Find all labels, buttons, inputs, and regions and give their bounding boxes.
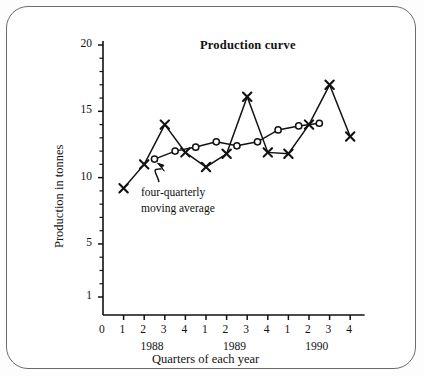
data-point-x-marker bbox=[222, 150, 230, 158]
x-axis-year-label: 1990 bbox=[305, 340, 328, 352]
y-tick-label: 15 bbox=[70, 103, 92, 115]
annotation-line-1: four-quarterly bbox=[141, 186, 205, 198]
y-tick-label: 1 bbox=[70, 289, 92, 301]
data-point-x-marker bbox=[346, 132, 354, 140]
x-tick-label: 3 bbox=[326, 323, 332, 335]
data-point-circle-marker bbox=[234, 143, 240, 149]
y-axis-title: Production in tonnes bbox=[52, 145, 67, 248]
x-tick-label: 0 bbox=[99, 323, 105, 335]
data-point-circle-marker bbox=[275, 127, 281, 133]
data-point-circle-marker bbox=[151, 156, 157, 162]
x-tick-label: 1 bbox=[120, 323, 126, 335]
data-point-circle-marker bbox=[213, 139, 219, 145]
x-tick-label: 2 bbox=[305, 323, 311, 335]
x-axis-year-label: 1988 bbox=[141, 340, 164, 352]
data-point-x-marker bbox=[140, 160, 148, 168]
x-tick-label: 1 bbox=[284, 323, 290, 335]
data-point-x-marker bbox=[161, 120, 169, 128]
data-point-x-marker bbox=[243, 93, 251, 101]
annotation-arrowhead bbox=[157, 163, 164, 171]
data-point-circle-marker bbox=[172, 148, 178, 154]
x-tick-label: 2 bbox=[223, 323, 229, 335]
data-point-x-marker bbox=[202, 163, 210, 171]
data-point-x-marker bbox=[325, 81, 333, 89]
data-point-circle-marker bbox=[296, 123, 302, 129]
x-tick-label: 4 bbox=[181, 323, 187, 335]
series-production bbox=[119, 81, 354, 193]
y-tick-label: 5 bbox=[70, 236, 92, 248]
data-point-x-marker bbox=[119, 184, 127, 192]
x-axis-year-label: 1989 bbox=[223, 340, 246, 352]
annotation-line-2: moving average bbox=[141, 202, 215, 214]
y-tick-label: 20 bbox=[70, 37, 92, 49]
axes-group bbox=[103, 41, 365, 315]
x-tick-label: 4 bbox=[346, 323, 352, 335]
x-tick-label: 3 bbox=[161, 323, 167, 335]
series-line bbox=[124, 85, 351, 188]
x-tick-label: 3 bbox=[243, 323, 249, 335]
chart-title: Production curve bbox=[200, 38, 296, 53]
x-axis-title: Quarters of each year bbox=[152, 352, 259, 367]
chart-page: Production curve Production in tonnes Qu… bbox=[0, 0, 424, 377]
annotation-curve bbox=[155, 169, 161, 182]
x-tick-label: 4 bbox=[264, 323, 270, 335]
series-line bbox=[155, 123, 320, 159]
annotation-leader bbox=[155, 163, 164, 182]
data-point-circle-marker bbox=[193, 144, 199, 150]
x-tick-label: 2 bbox=[140, 323, 146, 335]
x-tick-label: 1 bbox=[202, 323, 208, 335]
data-point-circle-marker bbox=[316, 120, 322, 126]
data-point-circle-marker bbox=[254, 139, 260, 145]
y-tick-label: 10 bbox=[70, 170, 92, 182]
